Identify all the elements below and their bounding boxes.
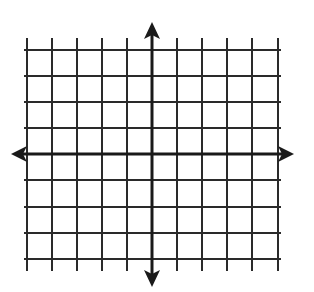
coordinate-plane — [0, 0, 314, 292]
